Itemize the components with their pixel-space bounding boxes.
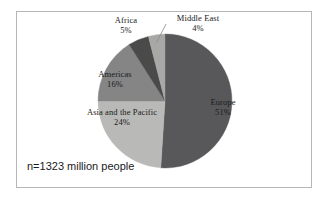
slice-label-americas-percent: 16%	[84, 80, 146, 90]
pie-chart-figure: Africa 5% Middle East 4% Americas 16% As…	[0, 0, 332, 202]
slice-label-africa: Africa 5%	[98, 16, 154, 35]
slice-label-europe-percent: 51%	[198, 108, 248, 118]
sample-size-footnote: n=1323 million people	[27, 159, 134, 173]
slice-label-americas: Americas 16%	[84, 70, 146, 89]
slice-label-middle-east-percent: 4%	[163, 24, 233, 34]
slice-label-middle-east: Middle East 4%	[163, 14, 233, 33]
slice-label-europe: Europe 51%	[198, 98, 248, 117]
slice-label-asia-and-the-pacific: Asia and the Pacific 24%	[80, 108, 164, 127]
slice-label-asia-and-the-pacific-percent: 24%	[80, 118, 164, 128]
slice-label-africa-percent: 5%	[98, 26, 154, 36]
